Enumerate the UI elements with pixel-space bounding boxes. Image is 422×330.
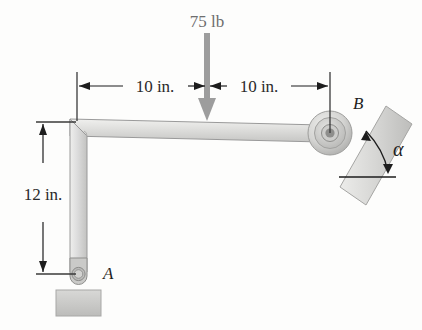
dimension-left-span: 10 in.: [79, 77, 205, 96]
dimension-right-span: 10 in.: [210, 77, 328, 96]
statics-diagram: 10 in. 10 in. 12 in. 75 lb B A: [0, 0, 422, 330]
angle-label-alpha: α: [393, 138, 404, 160]
dimension-label-right: 10 in.: [240, 77, 279, 96]
point-label-a: A: [102, 264, 114, 283]
load-arrow-75lb: [198, 33, 216, 121]
dimension-label-left: 10 in.: [136, 77, 175, 96]
horizontal-member: [70, 119, 322, 142]
load-label: 75 lb: [190, 12, 224, 31]
dimension-label-vertical: 12 in.: [24, 185, 63, 204]
figure-container: 10 in. 10 in. 12 in. 75 lb B A: [0, 0, 422, 330]
vertical-member: [70, 119, 87, 272]
dimension-vertical-height: 12 in.: [24, 124, 63, 272]
point-label-b: B: [353, 94, 364, 113]
pin-support-a: [56, 258, 101, 316]
